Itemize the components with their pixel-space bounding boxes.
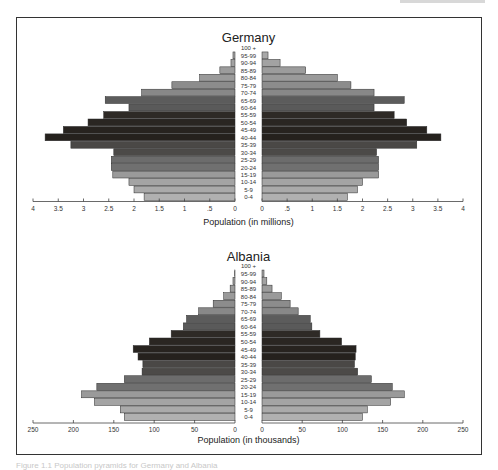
tick-label: 2 — [132, 205, 136, 212]
age-label: 20-24 — [241, 165, 257, 171]
bar-right — [262, 383, 392, 390]
bar-left — [143, 361, 235, 368]
tick-label: 3 — [411, 205, 415, 212]
bar-left — [81, 391, 235, 398]
bar-left — [63, 126, 235, 133]
age-label: 65-69 — [241, 98, 257, 104]
bar-left — [124, 376, 235, 383]
bar-left — [142, 368, 235, 375]
bar-right — [262, 119, 407, 126]
age-label: 45-49 — [241, 127, 257, 133]
bar-left — [94, 398, 235, 405]
bar-left — [88, 119, 235, 126]
bar-left — [114, 149, 235, 156]
bar-right — [262, 164, 379, 171]
age-label: 10-14 — [241, 179, 257, 185]
tick-label: 4 — [461, 205, 465, 212]
bar-right — [262, 323, 312, 330]
bar-right — [262, 406, 367, 413]
chart-title: Germany — [222, 30, 276, 45]
bar-right — [262, 179, 363, 186]
bar-right — [262, 300, 290, 307]
age-label: 95-99 — [241, 271, 257, 277]
bar-right — [262, 171, 379, 178]
age-label: 70-74 — [241, 309, 257, 315]
bar-left — [213, 300, 235, 307]
age-label: 85-89 — [241, 68, 257, 74]
bar-right — [262, 270, 264, 277]
bar-left — [233, 278, 235, 285]
bar-left — [105, 97, 235, 104]
pyramid-albania: Albania100 +95-9990-9485-8980-8475-7970-… — [28, 249, 469, 445]
bar-right — [262, 285, 272, 292]
age-label: 55-59 — [241, 331, 257, 337]
bar-right — [262, 293, 281, 300]
bar-left — [183, 323, 235, 330]
age-label: 5-9 — [244, 187, 253, 193]
bar-right — [262, 112, 394, 119]
age-label: 80-84 — [241, 294, 257, 300]
bar-left — [124, 414, 235, 421]
tick-label: 2 — [361, 205, 365, 212]
tick-label: 50 — [191, 426, 199, 433]
age-label: 50-54 — [241, 120, 257, 126]
age-label: 40-44 — [241, 354, 257, 360]
age-label: 90-94 — [241, 279, 257, 285]
bar-right — [262, 315, 310, 322]
bar-left — [120, 406, 235, 413]
age-label: 35-39 — [241, 362, 257, 368]
age-label: 15-19 — [241, 172, 257, 178]
bar-left — [129, 179, 235, 186]
tick-label: 0 — [260, 426, 264, 433]
x-axis-label: Population (in thousands) — [197, 435, 299, 445]
tick-label: 3 — [82, 205, 86, 212]
bar-right — [262, 156, 379, 163]
bar-left — [134, 186, 235, 193]
tick-label: 0 — [233, 205, 237, 212]
tick-label: 200 — [417, 426, 428, 433]
age-label: 75-79 — [241, 83, 257, 89]
bar-left — [233, 52, 235, 59]
bar-right — [262, 414, 363, 421]
tick-label: 3.5 — [433, 205, 442, 212]
tick-label: 150 — [108, 426, 119, 433]
bar-left — [71, 141, 235, 148]
tick-label: 200 — [68, 426, 79, 433]
bar-right — [262, 134, 441, 141]
bar-right — [262, 376, 371, 383]
bar-left — [220, 67, 235, 74]
bar-left — [200, 74, 235, 81]
tick-label: 2.5 — [104, 205, 113, 212]
tick-label: 1 — [183, 205, 187, 212]
bar-left — [104, 112, 235, 119]
x-axis-label: Population (in millions) — [203, 217, 294, 227]
age-label: 45-49 — [241, 347, 257, 353]
bar-left — [224, 293, 235, 300]
bar-right — [262, 186, 357, 193]
bar-right — [262, 194, 347, 201]
bar-right — [262, 149, 377, 156]
age-label: 70-74 — [241, 90, 257, 96]
bar-right — [262, 52, 268, 59]
bar-right — [262, 126, 427, 133]
figure-caption: Figure 1.1 Population pyramids for Germa… — [16, 461, 217, 470]
age-label: 30-34 — [241, 369, 257, 375]
bar-left — [171, 330, 235, 337]
age-label: 20-24 — [241, 384, 257, 390]
tick-label: 0 — [260, 205, 264, 212]
bar-left — [172, 82, 235, 89]
tick-label: 100 — [337, 426, 348, 433]
age-label: 10-14 — [241, 399, 257, 405]
age-label: 90-94 — [241, 60, 257, 66]
age-label: 60-64 — [241, 324, 257, 330]
bar-right — [262, 104, 374, 111]
bar-right — [262, 308, 298, 315]
age-label: 55-59 — [241, 112, 257, 118]
age-label: 35-39 — [241, 142, 257, 148]
bar-right — [262, 338, 342, 345]
bar-right — [262, 67, 306, 74]
bar-right — [262, 361, 354, 368]
age-label: 60-64 — [241, 105, 257, 111]
age-label: 100 + — [241, 45, 257, 51]
